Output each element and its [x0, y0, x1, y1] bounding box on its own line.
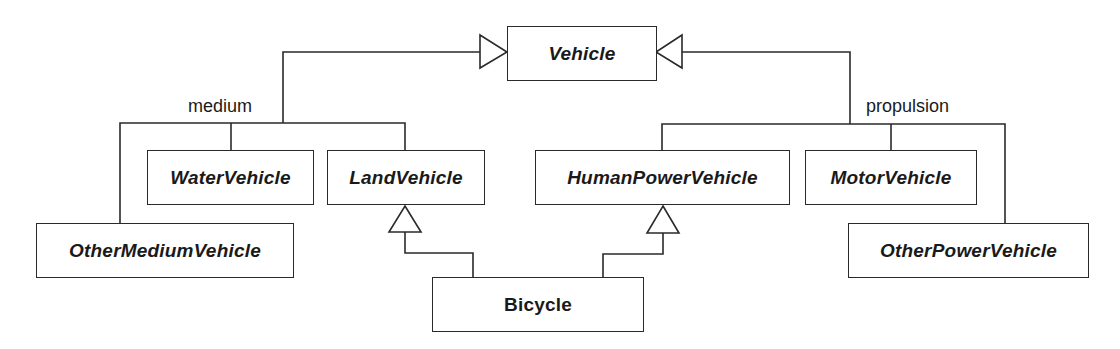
class-water-vehicle[interactable]: WaterVehicle [147, 150, 314, 205]
class-name: Vehicle [548, 43, 615, 65]
class-name: HumanPowerVehicle [567, 167, 758, 189]
vehicle-right-generalization-arrowhead-icon [656, 35, 682, 68]
class-land-vehicle[interactable]: LandVehicle [327, 150, 485, 205]
class-name: LandVehicle [349, 167, 462, 189]
discriminator-propulsion-label: propulsion [866, 96, 949, 117]
class-name: OtherPowerVehicle [880, 240, 1057, 262]
discriminator-medium-label: medium [188, 96, 252, 117]
class-bicycle[interactable]: Bicycle [432, 277, 644, 332]
medium-trunk-line [283, 52, 480, 123]
class-motor-vehicle[interactable]: MotorVehicle [805, 150, 977, 205]
bicycle-to-land-line [405, 232, 473, 277]
bicycle-to-human-line [603, 233, 663, 277]
class-other-power-vehicle[interactable]: OtherPowerVehicle [848, 223, 1089, 278]
class-other-medium-vehicle[interactable]: OtherMediumVehicle [36, 223, 294, 278]
land-generalization-arrowhead-icon [389, 206, 421, 232]
uml-class-diagram: medium propulsion Vehicle WaterVehicle L… [0, 0, 1120, 349]
propulsion-trunk-line [682, 52, 850, 124]
vehicle-left-generalization-arrowhead-icon [480, 35, 507, 68]
class-human-power-vehicle[interactable]: HumanPowerVehicle [535, 150, 790, 205]
class-name: MotorVehicle [831, 167, 952, 189]
class-name: Bicycle [504, 294, 572, 316]
class-name: OtherMediumVehicle [69, 240, 261, 262]
human-generalization-arrowhead-icon [647, 206, 679, 233]
class-name: WaterVehicle [170, 167, 291, 189]
class-vehicle[interactable]: Vehicle [507, 26, 657, 81]
